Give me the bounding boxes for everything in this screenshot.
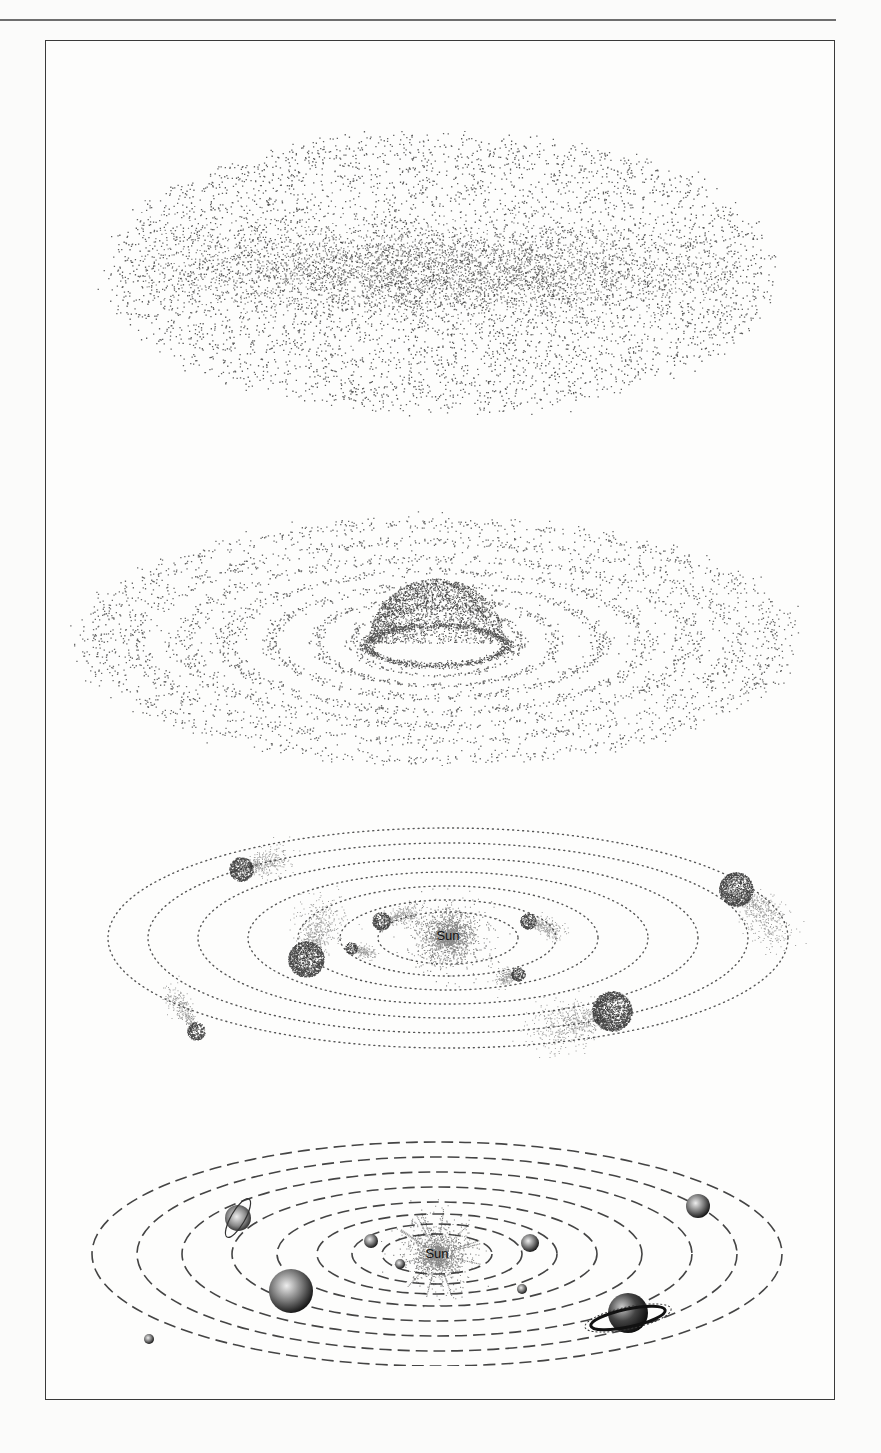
planet-saturn [583, 1293, 674, 1338]
planet-mars [517, 1284, 527, 1294]
protoplanet-9-tail [487, 967, 521, 998]
panel-stage-1-nebula [46, 131, 834, 431]
planet-venus [364, 1234, 378, 1248]
panel-stage-4-solar-system: Sun [46, 1126, 834, 1366]
nebula-outer-particles [98, 131, 777, 416]
planet-earth [521, 1234, 539, 1252]
figure-frame: Sun Sun [45, 40, 835, 1400]
disk-rings [70, 511, 799, 766]
planet-pluto [144, 1334, 154, 1344]
central-protosun-bulge [356, 579, 518, 671]
planet-jupiter [269, 1269, 313, 1313]
planet-ringed-small [221, 1195, 255, 1240]
planet-mercury [395, 1259, 405, 1269]
planet-uranus [686, 1194, 710, 1218]
rotating-disk-illustration [46, 496, 836, 766]
panel-stage-3-protoplanets: Sun [46, 811, 834, 1061]
nebula-dense-core-band [141, 192, 742, 364]
protoplanet-6 [520, 913, 537, 930]
protoplanet-7-tail [730, 879, 807, 955]
protoplanet-5 [345, 942, 358, 955]
page-top-rule [0, 19, 836, 21]
solar-system-illustration: Sun [46, 1126, 836, 1366]
protoplanet-8 [592, 991, 633, 1032]
panel-stage-2-disk [46, 496, 834, 766]
protoplanet-1-tail [239, 837, 301, 881]
protoplanet-9 [511, 968, 526, 982]
sun-label: Sun [436, 928, 459, 943]
sun-label: Sun [425, 1246, 448, 1261]
nebula-cloud-illustration [46, 131, 836, 431]
protoplanet-illustration: Sun [46, 811, 836, 1061]
